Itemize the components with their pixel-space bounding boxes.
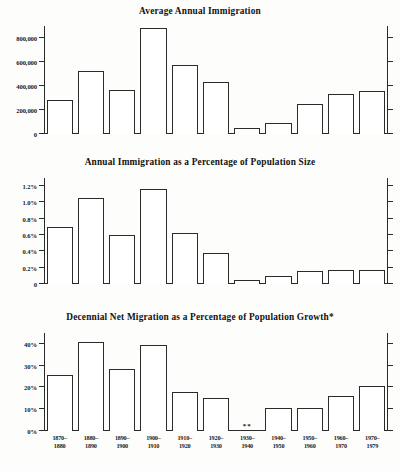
- y-axis-tick-label: 0: [34, 281, 37, 288]
- y-axis-tick-label: 200,000: [16, 107, 37, 114]
- bar-cell: [325, 333, 356, 431]
- bar-cell: [107, 26, 138, 134]
- bar: [47, 100, 73, 134]
- footnote-text: [14, 463, 386, 470]
- x-axis-tick-label: 1910–1920: [169, 434, 200, 451]
- y-tick-left: [39, 109, 45, 110]
- no-data-marker: **: [243, 422, 252, 430]
- y-axis-tick-label: 10%: [24, 406, 37, 413]
- y-tick-left: [39, 201, 45, 202]
- bar-cell: [169, 26, 200, 134]
- y-axis-tick-label: 800,000: [16, 35, 37, 42]
- y-tick-right: [387, 234, 393, 235]
- bar: [47, 375, 73, 431]
- bar-cell: [75, 26, 106, 134]
- y-axis-tick-label: 0.2%: [23, 264, 37, 271]
- y-axis-tick-label: 0: [34, 131, 37, 138]
- y-tick-left: [39, 218, 45, 219]
- chart-title-3: Decennial Net Migration as a Percentage …: [0, 312, 400, 322]
- bar-cell: [232, 26, 263, 134]
- y-tick-left: [39, 365, 45, 366]
- y-axis-tick-label: 30%: [24, 362, 37, 369]
- y-tick-right: [387, 61, 393, 62]
- bar: [359, 386, 385, 431]
- y-tick-left: [39, 430, 45, 431]
- bar: [328, 270, 354, 284]
- y-tick-left: [39, 250, 45, 251]
- y-tick-right: [387, 430, 393, 431]
- bar: [78, 342, 104, 431]
- bar: [78, 71, 104, 134]
- x-axis-tick-label: 1890–1900: [107, 434, 138, 451]
- bar: [297, 104, 323, 134]
- bar-cell: [294, 26, 325, 134]
- bar: [172, 233, 198, 284]
- bar: [109, 369, 135, 431]
- bar-cell: [44, 333, 75, 431]
- x-axis-tick-label: 1970–1979: [357, 434, 388, 451]
- y-tick-right: [387, 365, 393, 366]
- chart-panel-average-annual-immigration: Average Annual Immigration 0200,000400,0…: [0, 6, 400, 146]
- bar: [78, 198, 104, 284]
- bar-group-3: **: [44, 333, 388, 431]
- y-tick-left: [39, 133, 45, 134]
- bar-cell: [138, 178, 169, 284]
- bar-cell: [357, 178, 388, 284]
- bar: [172, 65, 198, 134]
- plot-area-2: 00.2%0.4%0.6%0.8%1.0%1.2%: [44, 178, 388, 284]
- bar-cell: [107, 333, 138, 431]
- y-tick-left: [39, 283, 45, 284]
- bar-cell: [294, 333, 325, 431]
- y-tick-right: [387, 267, 393, 268]
- y-axis-tick-label: 1.0%: [23, 199, 37, 206]
- y-tick-left: [39, 85, 45, 86]
- bar-cell: [263, 333, 294, 431]
- bar: [203, 82, 229, 134]
- bar-cell: [138, 26, 169, 134]
- bar: [297, 408, 323, 431]
- bar: [265, 408, 291, 431]
- bar-cell: [325, 178, 356, 284]
- plot-area-1: 0200,000400,000600,000800,000: [44, 26, 388, 134]
- bar: [265, 123, 291, 134]
- bar-group-1: [44, 26, 388, 134]
- bar: [234, 280, 260, 284]
- y-axis-tick-label: 0%: [27, 428, 37, 435]
- chart-panel-net-migration-percentage-growth: Decennial Net Migration as a Percentage …: [0, 312, 400, 462]
- x-axis-tick-label: 1920–1930: [200, 434, 231, 451]
- y-axis-tick-label: 0.8%: [23, 215, 37, 222]
- y-tick-right: [387, 85, 393, 86]
- bar-cell: [44, 26, 75, 134]
- bar-cell: [200, 26, 231, 134]
- x-axis-tick-label: 1900–1910: [138, 434, 169, 451]
- bar: [140, 189, 166, 284]
- plot-area-3: ** 0%10%20%30%40%: [44, 333, 388, 431]
- bar: [265, 276, 291, 284]
- bar: [140, 28, 166, 134]
- bar-cell: [357, 26, 388, 134]
- bar: [172, 392, 198, 431]
- bar: [47, 227, 73, 284]
- bar-cell: **: [232, 333, 263, 431]
- bar: [234, 128, 260, 134]
- x-axis-labels: 1870–18801880–18901890–19001900–19101910…: [44, 434, 388, 451]
- bar: [140, 345, 166, 431]
- y-tick-right: [387, 408, 393, 409]
- y-tick-right: [387, 343, 393, 344]
- y-tick-left: [39, 267, 45, 268]
- x-axis-tick-label: 1930–1940: [232, 434, 263, 451]
- bar: [203, 398, 229, 431]
- y-axis-tick-label: 0.6%: [23, 232, 37, 239]
- bar-cell: [325, 26, 356, 134]
- bar: [109, 90, 135, 134]
- y-tick-right: [387, 201, 393, 202]
- bar: [359, 270, 385, 284]
- bar-cell: [263, 178, 294, 284]
- y-tick-right: [387, 185, 393, 186]
- bar-cell: [169, 333, 200, 431]
- y-tick-left: [39, 386, 45, 387]
- y-axis-tick-label: 1.2%: [23, 183, 37, 190]
- bar-cell: [232, 178, 263, 284]
- bar-cell: [169, 178, 200, 284]
- x-axis-tick-label: 1960–1970: [325, 434, 356, 451]
